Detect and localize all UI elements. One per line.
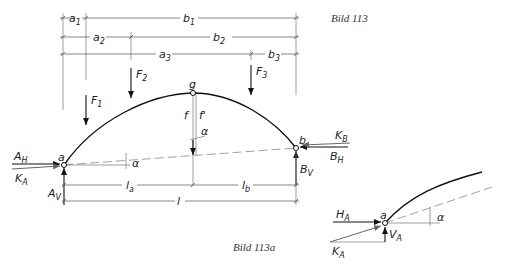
rise-f: f <box>184 109 190 122</box>
detail-va: VA <box>389 228 402 243</box>
hinge-a: a <box>58 151 65 164</box>
reaction-av: AV <box>47 187 62 202</box>
detail-hinge-a: a <box>380 209 387 222</box>
detail-angle-alpha: α <box>437 211 445 224</box>
span-la: la <box>126 179 134 194</box>
rise-f-prime: f' <box>199 109 206 122</box>
hinge-g: g <box>189 78 196 91</box>
reaction-ah: AH <box>13 150 28 165</box>
reaction-ka: KA <box>15 172 28 187</box>
dim-b1: b1 <box>183 12 195 27</box>
load-f1: F1 <box>91 94 102 109</box>
span-l: l <box>177 195 180 208</box>
dim-a1: a1 <box>69 12 81 27</box>
reactions-a: AH KA AV <box>12 150 64 205</box>
dim-b2: b2 <box>213 31 225 46</box>
angle-alpha-g: α <box>201 125 209 138</box>
detail-caption: Bild 113a <box>233 241 276 253</box>
reaction-bv: BV <box>300 163 314 178</box>
figure-caption: Bild 113 <box>331 12 368 24</box>
load-f3: F3 <box>256 65 267 80</box>
span-lb: lb <box>242 179 250 194</box>
reaction-kb: KB <box>335 129 348 144</box>
dim-a3: a3 <box>159 48 171 63</box>
load-f2: F2 <box>136 68 147 83</box>
arch-diagram: a1 b1 a2 b2 a3 b3 Bild 113 F1 F2 F3 α f … <box>0 0 520 265</box>
dim-b3: b3 <box>268 48 280 63</box>
angle-alpha-a: α <box>132 157 140 170</box>
detail-ha: HA <box>336 208 350 223</box>
span-dimensions: la lb l <box>62 150 299 208</box>
reaction-bh: BH <box>330 150 344 165</box>
detail-ka: KA <box>332 245 345 260</box>
dim-a2: a2 <box>93 31 105 46</box>
